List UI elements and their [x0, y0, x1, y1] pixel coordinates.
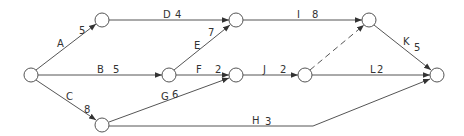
arrow-a	[36, 24, 96, 70]
node-3	[229, 13, 243, 27]
node-6	[298, 68, 312, 82]
dummy-arrow	[310, 25, 364, 70]
arrow-e	[174, 25, 230, 70]
label-l-duration: 2	[377, 64, 383, 75]
node-5	[229, 68, 243, 82]
label-e: E	[194, 40, 200, 51]
label-c: C	[66, 91, 73, 102]
label-e-duration: 7	[208, 27, 214, 38]
label-h: H	[252, 115, 260, 126]
node-2	[95, 13, 109, 27]
label-d-duration: 4	[175, 9, 181, 20]
label-b-duration: 5	[113, 64, 119, 75]
label-f: F	[196, 64, 202, 75]
node-4	[162, 68, 176, 82]
label-l: L	[370, 64, 376, 75]
label-h-duration: 3	[265, 116, 271, 127]
label-d: D	[163, 9, 171, 20]
arrow-g	[109, 78, 229, 122]
label-a-duration: 5	[79, 25, 85, 36]
label-g: G	[161, 91, 169, 102]
label-i-duration: 8	[312, 9, 318, 20]
network-diagram: A 5 B 5 C 8 D 4 E 7 F 2 G 6 H 3 I 8 J 2 …	[0, 0, 464, 136]
label-i: I	[297, 9, 300, 20]
node-9	[430, 68, 444, 82]
node-8	[362, 13, 376, 27]
node-1	[24, 68, 38, 82]
label-k-duration: 5	[414, 42, 420, 53]
label-g-duration: 6	[172, 89, 178, 100]
label-k: K	[403, 36, 410, 47]
node-7	[95, 118, 109, 132]
label-c-duration: 8	[84, 104, 90, 115]
label-a: A	[57, 38, 64, 49]
label-f-duration: 2	[215, 64, 221, 75]
label-j-duration: 2	[280, 64, 286, 75]
label-j: J	[262, 64, 266, 75]
label-b: B	[97, 64, 104, 75]
